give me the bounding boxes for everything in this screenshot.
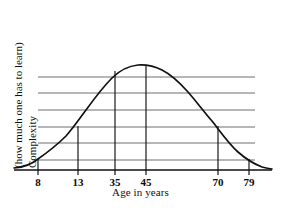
- y-axis-label-group: Complexity (how much one has to learn): [0, 0, 40, 175]
- drop-lines: [38, 66, 249, 170]
- x-axis-ticks: [38, 170, 249, 175]
- x-axis-label: Age in years: [0, 186, 281, 198]
- bell-curve-path: [14, 65, 272, 169]
- y-axis-label-line1: Complexity: [26, 116, 38, 168]
- y-axis-label-line2: (how much one has to learn): [12, 42, 24, 168]
- bell-curve-figure: Complexity (how much one has to learn) 8…: [0, 0, 281, 208]
